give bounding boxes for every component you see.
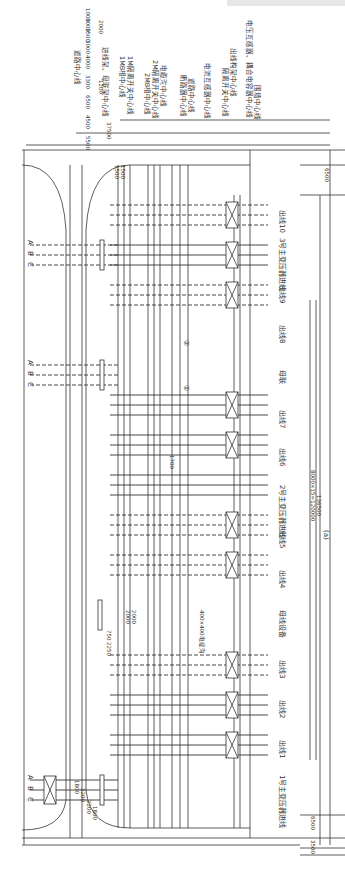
centerline-label-ct: 电流互感器中心线 [203, 63, 210, 119]
dim-1000: 1000 [85, 8, 91, 22]
dim-right-6500-top: 6500 [324, 168, 330, 182]
dim-5500: 5500 [85, 136, 91, 150]
dim-total-37500: 37500 [106, 122, 112, 140]
centerline-label-disconnector: 隔离开关中心线 [221, 68, 228, 117]
phase-a-label-2: A [26, 360, 34, 365]
dim-6500: 6500 [85, 95, 91, 109]
phase-b-label-3: B [26, 786, 34, 791]
dim-right-3500: 3500 [310, 840, 316, 854]
centerline-label-cable-trench: 电缆沟中心线 [159, 65, 166, 107]
dim-total-136500: 136500 [316, 495, 322, 516]
phase-a-label: A [26, 240, 34, 245]
bay-label-coupler: 母联 [278, 370, 288, 384]
phase-b-label: B [26, 251, 34, 256]
dim-cable-1700: 1700 [169, 455, 175, 469]
bay-label-tx2: 2号主变压器进线 [278, 485, 288, 538]
centerline-label-road-2: 道路中心线 [187, 78, 194, 113]
dim-mid-2000b: 2000 [131, 610, 137, 624]
phase-c-label-2: C [26, 382, 34, 387]
centerline-label-vt-cc: 电压互感器、耦合电容器中心线 [245, 20, 252, 118]
bay-label-tx1: 1号主变压器进线 [278, 775, 288, 828]
centerline-label-breaker: 断路器中心线 [179, 75, 186, 117]
centerline-label-1m-disconnector: 1M隔离开关中心线 [126, 56, 133, 115]
dim-4000: 4000 [85, 55, 91, 69]
centerline-label-outgoing-frame: 出线构架中心线 [229, 48, 236, 97]
dim-4500: 4500 [85, 115, 91, 129]
centerline-label-road: 道路中心线 [73, 50, 80, 85]
dim-3000: 3000 [85, 40, 91, 54]
marker-2: ② [182, 340, 190, 346]
bay-label-out3: 出线3 [278, 660, 288, 678]
dim-3300: 3300 [85, 75, 91, 89]
dim-mid-750: 750 [106, 630, 112, 641]
bay-label-out10: 出线10 [278, 210, 288, 233]
dim-bay-1500-b: 1500 [120, 165, 126, 179]
bay-label-out4: 出线4 [278, 570, 288, 588]
phase-c-label: C [26, 262, 34, 267]
dim-2000: 2000 [98, 20, 104, 34]
dim-left-1800b: 1800 [92, 806, 98, 820]
substation-layout-drawing [0, 0, 345, 878]
phase-b-label-2: B [26, 371, 34, 376]
bay-label-out7: 出线7 [278, 410, 288, 428]
centerline-label-2m-disconnector: 2M隔离开关中心线 [151, 60, 158, 119]
centerline-label-1mb-phase: 1MB相中心线 [118, 56, 125, 98]
phase-c-label-3: C [26, 797, 34, 802]
bay-label-out8: 出线8 [278, 325, 288, 343]
dim-1200: 1200 [98, 80, 104, 94]
cable-trench-label: 400×400电缆沟 [198, 610, 206, 654]
bay-label-out6: 出线6 [278, 448, 288, 466]
figure-label: (a) [322, 530, 330, 540]
dim-mid-2250: 2250 [106, 642, 112, 656]
bay-label-out2: 出线2 [278, 700, 288, 718]
phase-a-label-3: A [26, 775, 34, 780]
centerline-label-wall: 围墙中心线 [253, 85, 260, 120]
dim-right-6500-bottom: 6500 [310, 816, 316, 830]
bay-label-busdev: 母线设备 [278, 610, 288, 638]
centerline-label-2mb-phase: 2MB相中心线 [143, 73, 150, 115]
bay-label-tx3: 3号主变压器进线 [278, 238, 288, 291]
marker-1: ① [182, 385, 190, 391]
bay-label-out1: 出线1 [278, 740, 288, 758]
